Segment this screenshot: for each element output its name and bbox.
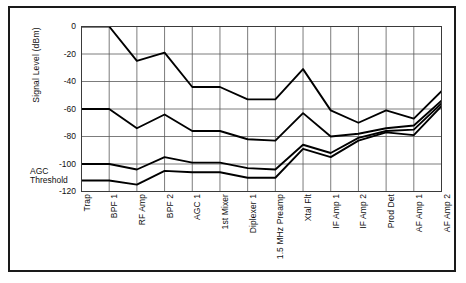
- x-tick-label: IF Amp 2: [358, 194, 368, 229]
- x-tick-label: Xtal Flt: [303, 194, 313, 221]
- y-tick-label: -120: [32, 186, 76, 196]
- figure-frame: Signal Level (dBm) 0-20-40-60-80-100-120…: [8, 6, 456, 272]
- agc-threshold-line2: Threshold: [30, 176, 78, 186]
- x-tick-label: BPF 1: [109, 194, 119, 218]
- signal-level-line-chart: [81, 26, 442, 192]
- y-tick-label: -80: [32, 131, 76, 141]
- x-tick-label: Trap: [82, 194, 92, 212]
- y-tick-label: -40: [32, 76, 76, 86]
- agc-threshold-annotation: AGC Threshold: [30, 167, 78, 186]
- grid-lines: [82, 27, 442, 192]
- x-tick-label: AGC 1: [192, 194, 202, 220]
- data-series-line-1: [82, 101, 442, 141]
- x-tick-label: IF Amp 1: [331, 194, 341, 229]
- x-tick-label: 1.5 MHz Preamp: [275, 194, 285, 259]
- x-tick-label: 1st Mixer: [220, 194, 230, 229]
- x-tick-label: Diplexer 1: [248, 194, 258, 233]
- data-series-line-3: [82, 106, 442, 184]
- x-tick-label: AF Amp 1: [414, 194, 424, 232]
- plot-area: [81, 26, 442, 192]
- x-tick-label: Prod Det: [386, 194, 396, 228]
- x-tick-label: RF Amp: [137, 194, 147, 225]
- x-tick-label: BPF 2: [165, 194, 175, 218]
- x-tick-label: AF Amp 2: [442, 194, 452, 232]
- y-tick-label: -60: [32, 104, 76, 114]
- data-series-line-0: [82, 27, 442, 123]
- y-tick-label: 0: [32, 21, 76, 31]
- y-tick-label: -20: [32, 49, 76, 59]
- x-axis-tick-labels: TrapBPF 1RF AmpBPF 2AGC 11st MixerDiplex…: [81, 192, 442, 272]
- data-series-group: [82, 27, 442, 185]
